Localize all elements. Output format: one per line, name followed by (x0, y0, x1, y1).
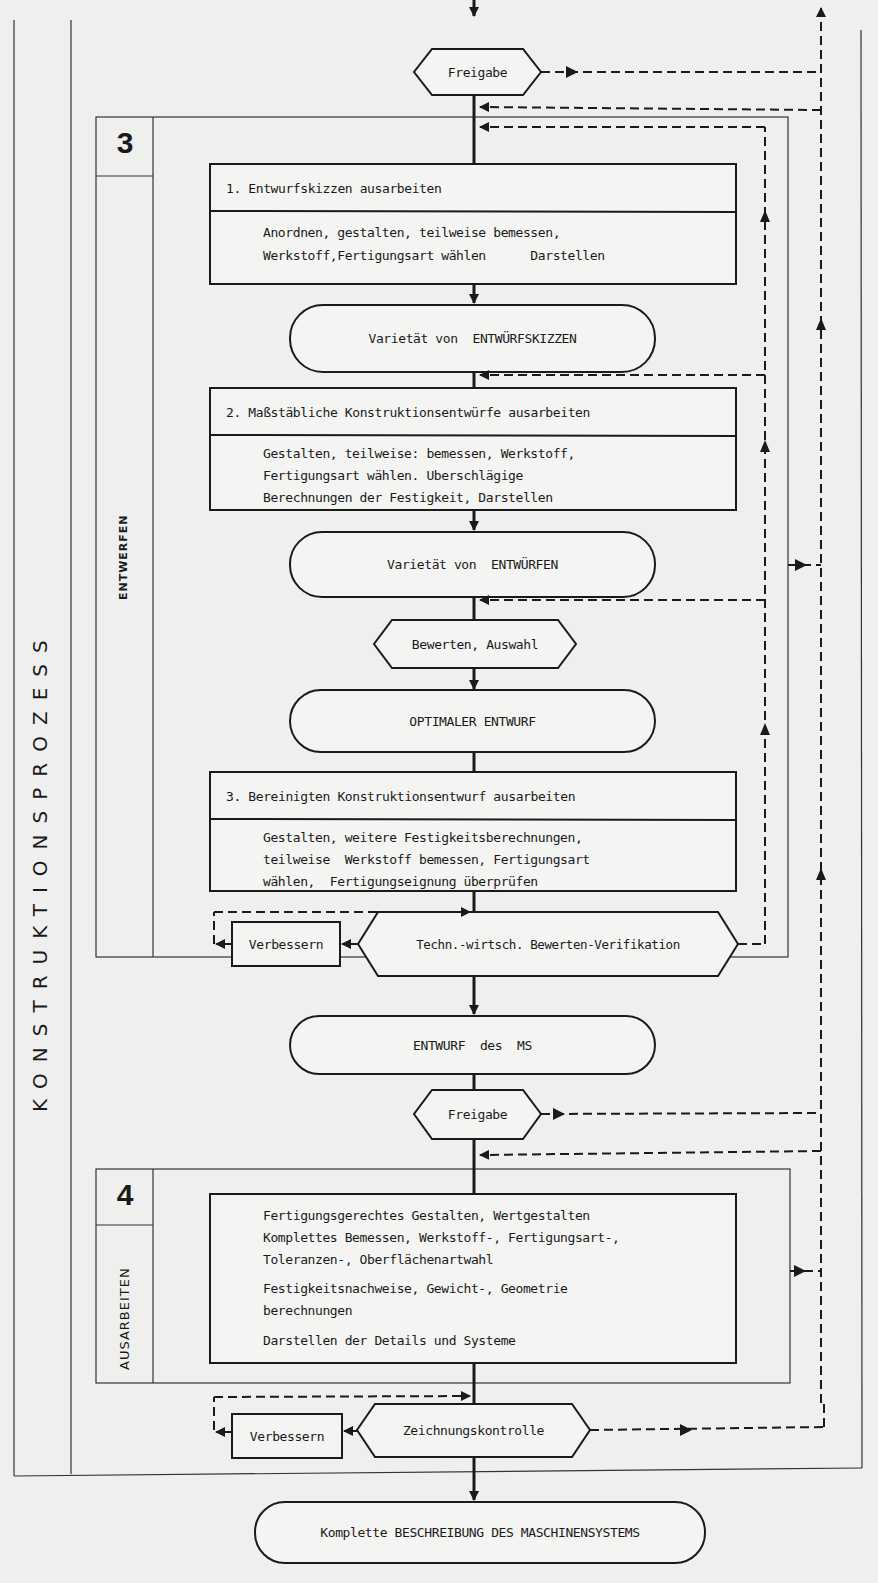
step-1-heading: 1. Entwurfskizzen ausarbeiten (226, 178, 441, 199)
phase-3-name: ENTWERFEN (117, 514, 130, 600)
process-title: KONSTRUKTIONSPROZESS (28, 629, 52, 1112)
step-1-line-1: Anordnen, gestalten, teilweise bemessen, (263, 222, 560, 243)
phase-4-p3-line-1: Darstellen der Details und Systeme (263, 1330, 516, 1351)
step-1-line-2: Werkstoff,Fertigungsart wählen Darstelle… (263, 245, 605, 266)
verbessern-2: Verbessern (232, 1426, 342, 1447)
phase-4-p2-line-2: berechnungen (263, 1300, 352, 1321)
decision-bewerten: Bewerten, Auswahl (374, 634, 576, 655)
decision-zeichnung: Zeichnungskontrolle (357, 1420, 590, 1441)
phase-4-p1-line-1: Fertigungsgerechtes Gestalten, Wertgesta… (263, 1205, 590, 1226)
decision-verifikation: Techn.-wirtsch. Bewerten-Verifikation (366, 934, 730, 955)
phase-3-number: 3 (98, 126, 152, 160)
intermediate-result: ENTWURF des MS (290, 1035, 655, 1056)
step-2-line-2: Fertigungsart wählen. Uberschlägige (263, 465, 523, 486)
result-optimal: OPTIMALER ENTWURF (290, 711, 655, 732)
step-3-line-1: Gestalten, weitere Festigkeitsberechnung… (263, 827, 582, 848)
gate-freigabe-top: Freigabe (414, 62, 541, 83)
result-entwuerfen: Varietät von ENTWÜRFEN (290, 554, 655, 575)
step-3-heading: 3. Bereinigten Konstruktionsentwurf ausa… (226, 786, 575, 807)
gate-freigabe-middle: Freigabe (414, 1104, 541, 1125)
phase-4-number: 4 (98, 1178, 152, 1212)
final-result: Komplette BESCHREIBUNG DES MASCHINENSYST… (255, 1522, 705, 1543)
phase-4-p1-line-2: Komplettes Bemessen, Werkstoff-, Fertigu… (263, 1227, 619, 1248)
phase-4-p2-line-1: Festigkeitsnachweise, Gewicht-, Geometri… (263, 1278, 568, 1299)
step-3-line-3: wählen, Fertigungseignung überprüfen (263, 871, 538, 892)
step-3-line-2: teilweise Werkstoff bemessen, Fertigungs… (263, 849, 590, 870)
step-2-heading: 2. Maßstäbliche Konstruktionsentwürfe au… (226, 402, 590, 423)
step-2-line-3: Berechnungen der Festigkeit, Darstellen (263, 487, 553, 508)
result-skizzen: Varietät von ENTWÜRFSKIZZEN (290, 328, 655, 349)
phase-4-name: AUSARBEITEN (117, 1267, 132, 1370)
step-2-line-1: Gestalten, teilweise: bemessen, Werkstof… (263, 443, 575, 464)
verbessern-1: Verbessern (232, 934, 340, 955)
phase-4-p1-line-3: Toleranzen-, Oberflächenartwahl (263, 1249, 493, 1270)
